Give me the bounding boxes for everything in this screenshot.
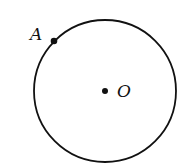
point-a-dot bbox=[51, 38, 58, 45]
point-a-label: A bbox=[28, 24, 42, 44]
circle-diagram: A O bbox=[0, 0, 188, 165]
point-o-dot bbox=[102, 88, 108, 94]
point-o-label: O bbox=[117, 81, 131, 101]
